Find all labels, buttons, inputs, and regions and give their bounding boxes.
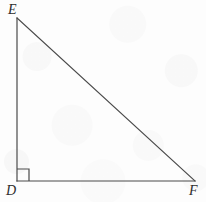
vertex-label-d: D <box>6 184 16 198</box>
right-angle-marker-icon <box>17 169 29 181</box>
right-triangle-drawing <box>0 0 206 202</box>
geometry-figure: E D F <box>0 0 206 202</box>
triangle-hypotenuse-ef <box>17 18 195 181</box>
vertex-label-e: E <box>8 3 17 17</box>
vertex-label-f: F <box>189 184 198 198</box>
